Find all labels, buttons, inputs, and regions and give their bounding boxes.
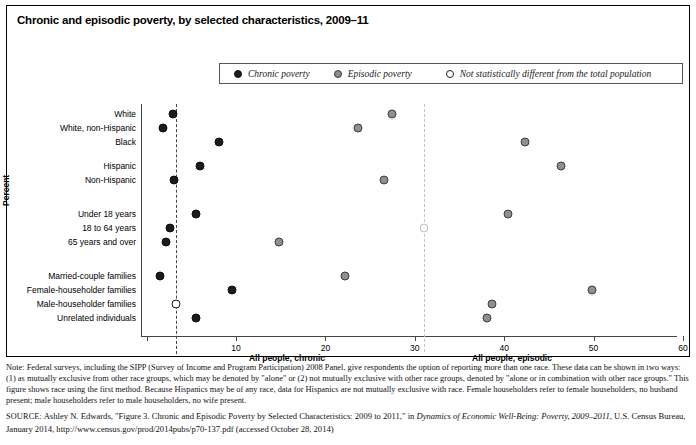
data-point-chronic [156,272,165,281]
data-point-episodic [353,124,362,133]
source-label: SOURCE: [6,412,42,421]
figure-source: SOURCE: Ashley N. Edwards, "Figure 3. Ch… [6,410,690,435]
data-point-episodic [483,314,492,323]
data-point-chronic [196,162,205,171]
source-text-before: Ashley N. Edwards, "Figure 3. Chronic an… [42,411,417,421]
x-tick-label: 60 [678,343,687,353]
x-tick-mark [325,336,326,341]
y-axis-line [141,104,142,336]
data-point-chronic [215,138,224,147]
x-tick-mark [594,336,595,341]
category-label: White [11,109,141,119]
x-axis-line [141,336,677,337]
figure-note: Note: Federal surveys, including the SIP… [6,362,690,406]
data-point-episodic [341,272,350,281]
plot-area: Percent WhiteWhite, non-HispanicBlackHis… [7,6,691,358]
category-label: Under 18 years [11,209,141,219]
data-point-episodic [387,110,396,119]
data-point-chronic [191,314,200,323]
data-point-chronic [191,210,200,219]
data-point-chronic [169,110,178,119]
data-point-episodic [380,176,389,185]
x-tick-label: 30 [410,343,419,353]
source-italic-title: Dynamics of Economic Well-Being: Poverty… [416,411,609,421]
x-tick-mark [683,336,684,341]
x-tick-label: 40 [499,343,508,353]
category-label: Female-householder families [11,285,141,295]
category-label: White, non-Hispanic [11,123,141,133]
category-label: Married-couple families [11,271,141,281]
data-point-episodic [587,286,596,295]
category-label: Black [11,137,141,147]
x-tick-mark [415,336,416,341]
figure-frame: Chronic and episodic poverty, by selecte… [6,5,690,357]
category-label: Unrelated individuals [11,313,141,323]
data-point-chronic [170,176,179,185]
x-tick-label: 50 [589,343,598,353]
reference-line [176,104,177,354]
x-tick-mark [504,336,505,341]
x-tick-mark [147,336,148,341]
data-point-episodic [487,300,496,309]
category-label: Non-Hispanic [11,175,141,185]
data-point-chronic [162,238,171,247]
x-tick-mark [236,336,237,341]
data-point-episodic [419,224,428,233]
data-point-episodic [520,138,529,147]
data-point-episodic [274,238,283,247]
category-label: Hispanic [11,161,141,171]
data-point-episodic [556,162,565,171]
category-label: 18 to 64 years [11,223,141,233]
data-point-episodic [503,210,512,219]
category-label: 65 years and over [11,237,141,247]
data-point-chronic [165,224,174,233]
data-point-chronic [228,286,237,295]
x-tick-label: 10 [231,343,240,353]
x-tick-label: 20 [321,343,330,353]
category-label: Male-householder families [11,299,141,309]
data-point-chronic [172,300,181,309]
data-point-chronic [158,124,167,133]
category-labels: WhiteWhite, non-HispanicBlackHispanicNon… [7,6,141,358]
